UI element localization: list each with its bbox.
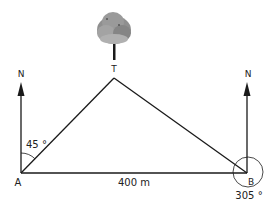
side-TB	[114, 78, 247, 173]
bearings-diagram: N N T A B 45 ° 305 ° 400 m	[0, 0, 275, 206]
north-label-B: N	[245, 69, 252, 79]
tree-icon	[97, 12, 131, 60]
distance-label-AB: 400 m	[118, 177, 150, 188]
arrowhead-icon	[18, 82, 25, 96]
north-arrow-B	[244, 82, 251, 173]
angle-label-A: 45 °	[26, 139, 47, 150]
triangle	[21, 78, 247, 173]
point-label-B: B	[248, 177, 254, 187]
arrowhead-icon	[244, 82, 251, 96]
north-arrow-A	[18, 82, 25, 173]
north-label-A: N	[18, 69, 25, 79]
angle-label-B: 305 °	[235, 190, 262, 201]
point-label-T: T	[110, 64, 117, 74]
angle-arc-A	[21, 153, 35, 159]
point-label-A: A	[15, 177, 22, 188]
